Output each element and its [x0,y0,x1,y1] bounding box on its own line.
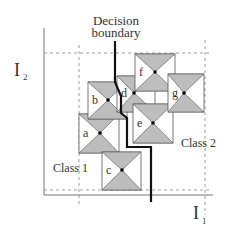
class2-label: Class 2 [181,136,216,150]
title-line2: boundary [91,25,141,40]
x-axis-subscript: 1 [202,216,207,226]
prototype-e: e [133,104,173,143]
prototype-point-e [151,121,155,125]
prototype-label-e: e [137,116,142,130]
y-axis-label: I [14,60,20,80]
prototype-a: a [79,114,119,153]
prototype-point-c [120,168,124,172]
prototype-c: c [102,152,141,190]
prototype-point-f [153,70,157,74]
prototype-label-c: c [106,163,111,177]
prototype-point-d [132,91,136,95]
prototype-g: g [168,74,204,112]
y-axis-subscript: 2 [23,72,28,82]
prototype-point-a [98,131,102,135]
prototype-label-f: f [139,65,143,79]
prototype-label-b: b [92,93,98,107]
class1-label: Class 1 [53,161,88,175]
prototype-label-a: a [83,126,89,140]
x-axis-label: I [193,203,199,223]
prototype-label-g: g [172,86,178,100]
decision-boundary-diagram: abcdefg Decision boundary I 2 I 1 Class … [0,0,243,229]
prototype-point-b [106,98,110,102]
prototype-point-g [182,91,186,95]
prototype-squares: abcdefg [79,54,204,190]
